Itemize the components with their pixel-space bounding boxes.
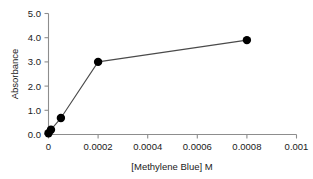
y-tick-label: 3.0 xyxy=(28,56,41,67)
chart-figure: 0.0 1.0 2.0 3.0 4.0 5.0 0 0.0002 0.0004 … xyxy=(0,0,313,179)
x-tick-label: 0.0004 xyxy=(133,141,162,152)
y-tick-label: 1.0 xyxy=(28,105,41,116)
x-tick-label: 0.0006 xyxy=(183,141,212,152)
y-axis-title: Absorbance xyxy=(9,49,20,100)
x-tick-label: 0.0008 xyxy=(232,141,261,152)
data-point-marker xyxy=(243,36,251,44)
figure-background xyxy=(0,0,313,179)
absorbance-line-chart: 0.0 1.0 2.0 3.0 4.0 5.0 0 0.0002 0.0004 … xyxy=(0,0,313,179)
data-point-marker xyxy=(57,114,65,122)
x-axis-title: [Methylene Blue] M xyxy=(131,161,212,172)
x-tick-label: 0 xyxy=(46,141,51,152)
y-tick-label: 2.0 xyxy=(28,81,41,92)
x-tick-label: 0.0002 xyxy=(84,141,113,152)
data-point-marker xyxy=(47,125,55,133)
x-tick-label: 0.001 xyxy=(285,141,309,152)
y-tick-label: 0.0 xyxy=(28,129,41,140)
data-point-marker xyxy=(94,58,102,66)
y-tick-label: 5.0 xyxy=(28,8,41,19)
y-tick-label: 4.0 xyxy=(28,32,41,43)
